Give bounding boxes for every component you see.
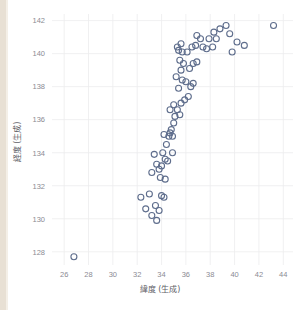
scatter-point <box>163 141 169 147</box>
scatter-point <box>154 217 160 223</box>
scatter-point <box>173 74 179 80</box>
scatter-point <box>190 61 196 67</box>
x-tick-label: 34 <box>157 270 165 279</box>
scatter-point <box>138 194 144 200</box>
scatter-point <box>146 191 152 197</box>
scatter-plot: 128130132134136138140142 262830323436384… <box>0 0 299 310</box>
y-axis-title: 経度 (生成) <box>12 122 22 163</box>
x-tick-label: 40 <box>230 270 238 279</box>
y-tick-label: 128 <box>32 248 45 257</box>
x-axis-title: 緯度 (生成) <box>140 284 181 294</box>
x-tick-label: 28 <box>84 270 92 279</box>
scatter-point <box>149 212 155 218</box>
scatter-point <box>143 206 149 212</box>
scatter-point <box>151 151 157 157</box>
x-axis-ticks: 26283032343638404244 <box>60 270 287 279</box>
scatter-point <box>206 36 212 42</box>
scatter-point <box>171 120 177 126</box>
scatter-point <box>178 41 184 47</box>
chart-page: 128130132134136138140142 262830323436384… <box>0 0 299 310</box>
y-axis-ticks: 128130132134136138140142 <box>32 16 45 256</box>
scatter-point <box>193 42 199 48</box>
scatter-point <box>200 44 206 50</box>
y-tick-label: 136 <box>32 115 45 124</box>
scatter-point <box>71 254 77 260</box>
scatter-point <box>204 46 210 52</box>
y-tick-label: 130 <box>32 215 45 224</box>
y-tick-label: 142 <box>32 16 45 25</box>
y-tick-label: 140 <box>32 49 45 58</box>
scatter-point <box>178 100 184 106</box>
x-tick-label: 44 <box>279 270 287 279</box>
x-tick-label: 32 <box>133 270 141 279</box>
scatter-point <box>241 42 247 48</box>
scatter-point <box>227 31 233 37</box>
scatter-point <box>213 36 219 42</box>
scatter-point <box>179 77 185 83</box>
x-tick-label: 38 <box>206 270 214 279</box>
x-tick-label: 36 <box>182 270 190 279</box>
scatter-point <box>178 67 184 73</box>
scatter-point <box>167 107 173 113</box>
x-tick-label: 26 <box>60 270 68 279</box>
x-tick-label: 30 <box>109 270 117 279</box>
scatter-point <box>211 29 217 35</box>
scatter-point <box>149 170 155 176</box>
x-tick-label: 42 <box>255 270 263 279</box>
y-tick-label: 138 <box>32 82 45 91</box>
scatter-point <box>223 23 229 29</box>
scatter-point <box>217 26 223 32</box>
scatter-point <box>194 32 200 38</box>
scatter-point <box>176 85 182 91</box>
scatter-point <box>177 57 183 63</box>
data-points <box>71 23 277 260</box>
scatter-point <box>197 36 203 42</box>
scatter-point <box>194 59 200 65</box>
scatter-point <box>271 23 277 29</box>
scatter-point <box>189 44 195 50</box>
scatter-point <box>182 97 188 103</box>
y-tick-label: 132 <box>32 182 45 191</box>
y-tick-label: 134 <box>32 149 45 158</box>
